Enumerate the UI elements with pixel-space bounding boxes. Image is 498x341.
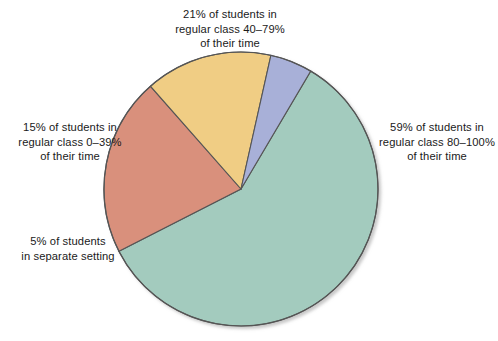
pie-label-regular-class-40-79: 21% of students in regular class 40–79% … [128, 7, 332, 51]
pie-label-separate-setting: 5% of students in separate setting [4, 234, 132, 263]
pie-label-regular-class-80-100: 59% of students in regular class 80–100%… [376, 120, 498, 164]
pie-chart-graphic [0, 0, 498, 341]
pie-label-regular-class-0-39: 15% of students in regular class 0–39% o… [2, 120, 138, 164]
pie-slices-group [104, 52, 378, 326]
pie-chart-figure: 21% of students in regular class 40–79% … [0, 0, 498, 341]
